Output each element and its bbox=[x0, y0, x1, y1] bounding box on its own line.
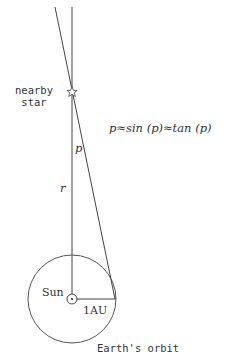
sun-center-dot-icon bbox=[71, 298, 73, 300]
star-label-line2: star bbox=[21, 96, 46, 108]
parallax-diagram: nearby star p≈sin (p)≈tan (p) p r Sun 1A… bbox=[0, 0, 234, 361]
diagram-canvas: nearby star p≈sin (p)≈tan (p) p r Sun 1A… bbox=[0, 0, 234, 361]
parallax-angle-label: p bbox=[75, 141, 83, 155]
earth-star-sightline bbox=[55, 7, 115, 299]
star-label-line1: nearby bbox=[15, 84, 53, 96]
distance-label: r bbox=[60, 181, 67, 195]
sun-label: Sun bbox=[42, 286, 64, 299]
baseline-label: 1AU bbox=[83, 304, 107, 317]
earth-orbit-label: Earth's orbit bbox=[97, 342, 179, 354]
parallax-formula: p≈sin (p)≈tan (p) bbox=[109, 121, 211, 135]
